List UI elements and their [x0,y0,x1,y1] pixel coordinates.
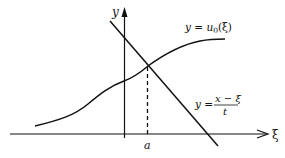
line-label-lhs: y = [194,98,213,110]
curve-u0-label-arg: (ξ) [218,21,232,33]
y-axis-arrowhead-icon [122,7,128,17]
svg-text:y = u0(ξ): y = u0(ξ) [184,21,232,35]
xi-axis-label: ξ [272,128,279,142]
line-characteristic-label: y = x − ξ t [194,93,241,117]
curve-u0 [35,39,225,126]
intersection-label-a: a [144,139,151,152]
curve-u0-label-lhs: y = [184,21,206,33]
characteristics-diagram: ξ y a y = u0(ξ) y = x − ξ t [0,0,285,158]
line-label-numerator: x − ξ [215,93,241,104]
curve-u0-label: y = u0(ξ) [184,21,232,35]
y-axis-label: y [111,5,119,19]
line-characteristic [110,21,218,146]
line-label-denominator: t [223,106,228,117]
